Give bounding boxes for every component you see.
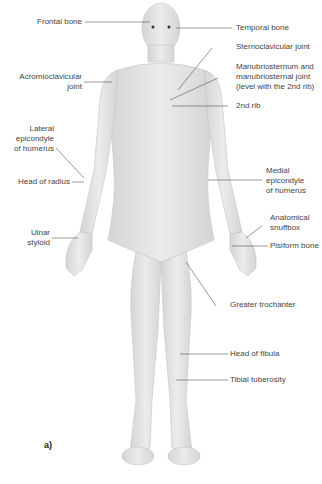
label-head-of-radius: Head of radius [18,177,70,187]
label-sternoclavicular-joint: Sternoclavicular joint [236,42,310,52]
label-greater-trochanter: Greater trochanter [230,300,295,310]
panel-label: a) [44,440,52,450]
label-tibial-tuberosity: Tibial tuberosity [230,375,286,385]
label-ulnar-styloid: Ulnar styloid [27,228,50,248]
label-acromioclavicular-joint: Acromioclavicular joint [19,72,82,92]
label-lateral-epicondyle: Lateral epicondyle of humerus [14,124,54,154]
label-temporal-bone: Temporal bone [236,23,289,33]
label-medial-epicondyle: Medial epicondyle of humerus [266,166,306,196]
label-frontal-bone: Frontal bone [37,17,82,27]
label-anatomical-snuffbox: Anatomical snuffbox [270,213,310,233]
label-2nd-rib: 2nd rib [236,101,260,111]
label-head-of-fibula: Head of fibula [230,349,279,359]
label-pisiform-bone: Pisiform bone [270,241,319,251]
label-manubriosternum: Manubriosternum and manubriosternal join… [236,62,314,92]
